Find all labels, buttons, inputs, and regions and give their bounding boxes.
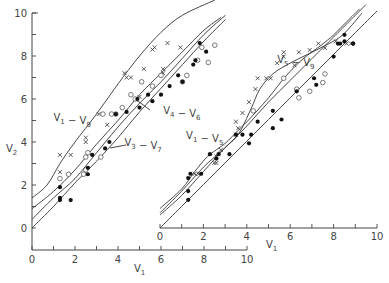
filled-dot-marker — [249, 133, 253, 137]
open-circle-marker — [212, 43, 217, 48]
open-circle-marker — [83, 155, 88, 160]
filled-dot-marker — [332, 54, 336, 58]
curve-label: V1 − V9 — [54, 112, 91, 129]
filled-dot-marker — [114, 112, 118, 116]
curve-label: V5 − V9 — [277, 54, 314, 71]
filled-dot-marker — [240, 133, 244, 137]
filled-dot-marker — [214, 156, 218, 160]
x-tick-label: 10 — [241, 254, 254, 265]
open-circle-marker — [81, 172, 86, 177]
y-tick-label: 2 — [21, 180, 27, 191]
filled-dot-marker — [188, 172, 192, 176]
filled-dot-marker — [107, 140, 111, 144]
filled-dot-marker — [342, 39, 346, 43]
filled-dot-marker — [150, 99, 154, 103]
filled-dot-marker — [208, 152, 212, 156]
open-circle-marker — [120, 105, 125, 110]
open-circle-marker — [150, 84, 155, 89]
open-circle-marker — [281, 76, 286, 81]
open-circle-marker — [99, 155, 104, 160]
open-circle-marker — [129, 92, 134, 97]
filled-dot-marker — [216, 152, 220, 156]
filled-dot-marker — [234, 133, 238, 137]
left-plot-curves: V1 − V9V3 − V7V4 − V6 — [32, 0, 226, 228]
filled-dot-marker — [312, 76, 316, 80]
filled-dot-marker — [204, 50, 208, 54]
filled-dot-marker — [186, 189, 190, 193]
curve-label: V1 − V5 — [186, 130, 223, 147]
open-circle-marker — [101, 112, 106, 117]
curve-baseline — [160, 11, 377, 228]
filled-dot-marker — [342, 33, 346, 37]
open-circle-marker — [86, 150, 91, 155]
filled-dot-marker — [137, 106, 141, 110]
filled-dot-marker — [193, 58, 197, 62]
filled-dot-marker — [58, 198, 62, 202]
filled-dot-marker — [198, 41, 202, 45]
filled-dot-marker — [125, 110, 129, 114]
open-circle-marker — [200, 45, 205, 50]
left-x-axis-label: V1 — [134, 263, 145, 277]
filled-dot-marker — [135, 97, 139, 101]
curve-label: V3 − V7 — [124, 137, 161, 154]
filled-dot-marker — [58, 185, 62, 189]
filled-dot-marker — [86, 172, 90, 176]
filled-dot-marker — [314, 83, 318, 87]
open-circle-marker — [323, 72, 328, 77]
filled-dot-marker — [271, 109, 275, 113]
open-circle-marker — [109, 112, 114, 117]
filled-dot-marker — [86, 166, 90, 170]
chart-svg: 02468100246810 V1 − V9V3 − V7V4 − V6 024… — [0, 0, 389, 283]
x-tick-label: 10 — [371, 231, 384, 242]
x-tick-label: 6 — [287, 231, 293, 242]
x-tick-label: 4 — [244, 231, 250, 242]
filled-dot-marker — [199, 172, 203, 176]
filled-dot-marker — [186, 176, 190, 180]
open-circle-marker — [251, 109, 256, 114]
filled-dot-marker — [186, 198, 190, 202]
open-circle-marker — [185, 73, 190, 78]
open-circle-marker — [307, 89, 312, 94]
x-tick-label: 4 — [115, 254, 121, 265]
open-circle-marker — [320, 80, 325, 85]
open-circle-marker — [58, 176, 63, 181]
x-tick-label: 2 — [72, 254, 78, 265]
filled-dot-marker — [338, 41, 342, 45]
open-circle-marker — [206, 60, 211, 65]
filled-dot-marker — [295, 89, 299, 93]
y-tick-label: 0 — [21, 223, 27, 234]
right-x-axis-label: V1 — [266, 239, 277, 253]
y-tick-label: 4 — [21, 137, 27, 148]
x-tick-label: 2 — [200, 231, 206, 242]
open-circle-marker — [139, 80, 144, 85]
filled-dot-marker — [159, 93, 163, 97]
filled-dot-marker — [176, 73, 180, 77]
x-tick-label: 8 — [330, 231, 336, 242]
open-circle-marker — [159, 73, 164, 78]
filled-dot-marker — [247, 141, 251, 145]
x-tick-label: 6 — [158, 254, 164, 265]
y-tick-label: 6 — [21, 94, 27, 105]
filled-dot-marker — [191, 63, 195, 67]
y-tick-label: 10 — [14, 8, 27, 19]
filled-dot-marker — [227, 152, 231, 156]
curve-label: V4 − V6 — [163, 105, 201, 122]
filled-dot-marker — [271, 126, 275, 130]
open-circle-marker — [297, 96, 302, 101]
filled-dot-marker — [256, 120, 260, 124]
filled-dot-marker — [103, 146, 107, 150]
curve-v1-v9 — [32, 0, 215, 198]
filled-dot-marker — [90, 153, 94, 157]
filled-dot-marker — [168, 84, 172, 88]
filled-dot-marker — [351, 41, 355, 45]
filled-dot-marker — [180, 80, 184, 84]
x-tick-label: 0 — [29, 254, 35, 265]
y-tick-label: 8 — [21, 51, 27, 62]
left-y-axis-label: V2 — [6, 143, 17, 157]
open-circle-marker — [66, 172, 71, 177]
x-tick-label: 8 — [201, 254, 207, 265]
filled-dot-marker — [69, 198, 73, 202]
filled-dot-marker — [146, 93, 150, 97]
x-tick-label: 0 — [157, 231, 163, 242]
filled-dot-marker — [279, 117, 283, 121]
